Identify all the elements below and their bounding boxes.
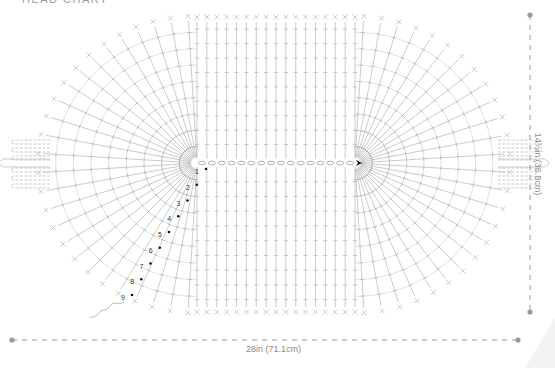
height-dimension-label: 14½in (36.8cm) xyxy=(533,133,543,196)
row-start-marker xyxy=(196,184,199,187)
row-start-marker xyxy=(168,231,171,234)
dimension-endpoint xyxy=(515,337,520,342)
dimension-endpoint xyxy=(9,337,14,342)
row-number-label: 5 xyxy=(158,231,162,238)
row-number-label: 1 xyxy=(195,168,199,175)
row-number-label: 2 xyxy=(186,184,190,191)
page-corner xyxy=(525,318,555,368)
row-number-label: 8 xyxy=(130,278,134,285)
row-start-marker xyxy=(186,199,189,202)
row-number-label: 4 xyxy=(167,215,171,222)
row-start-marker xyxy=(159,247,162,250)
crochet-chart: 123456789 xyxy=(0,0,555,368)
row-start-marker xyxy=(131,294,134,297)
width-dimension-label: 28in (71.1cm) xyxy=(246,344,301,354)
row-number-label: 6 xyxy=(149,247,153,254)
dimension-endpoint xyxy=(527,12,532,17)
row-number-label: 7 xyxy=(140,263,144,270)
row-start-marker xyxy=(177,215,180,218)
row-start-marker xyxy=(149,262,152,265)
yarn-tail xyxy=(90,302,124,318)
row-number-label: 3 xyxy=(177,200,181,207)
row-markers: 123456789 xyxy=(121,168,207,301)
row-number-label: 9 xyxy=(121,294,125,301)
row-start-marker xyxy=(205,168,208,171)
row-start-marker xyxy=(140,278,143,281)
foundation-chain xyxy=(198,161,353,165)
dimension-endpoint xyxy=(527,309,532,314)
